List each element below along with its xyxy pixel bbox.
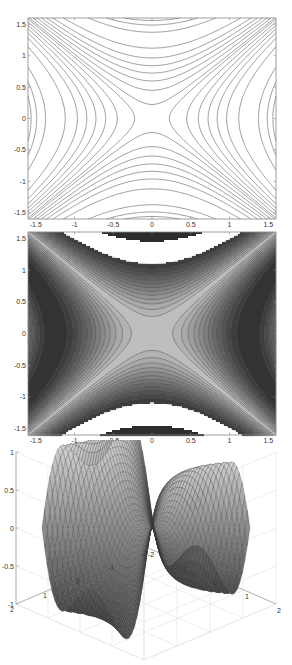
y-tick-label: -1 xyxy=(108,564,114,571)
z-tick-label: 0 xyxy=(10,525,14,532)
filled-contours xyxy=(28,232,276,436)
x-tick-label: -2 xyxy=(148,551,154,558)
y-tick-label: 2 xyxy=(10,606,14,613)
surface-mesh xyxy=(42,440,250,639)
surface-plot-panel: 10.50-0.5-1210-1-2-2-1012 xyxy=(0,440,292,665)
y-tick-label: -0.5 xyxy=(14,146,26,153)
x-tick-label: 1.5 xyxy=(263,221,273,228)
contour-plot-panel: -1.5-1-0.500.511.51.510.50-0.5-1-1.5 xyxy=(0,0,292,232)
y-tick-label: -1.5 xyxy=(14,209,26,216)
x-tick-label: -1 xyxy=(71,221,77,228)
y-tick-label: -2 xyxy=(141,550,147,557)
y-tick-label: -1 xyxy=(20,393,26,400)
x-tick-label: -1.5 xyxy=(30,221,42,228)
z-tick-label: -0.5 xyxy=(2,563,14,570)
x-tick-label: 1 xyxy=(228,221,232,228)
y-tick-label: -0.5 xyxy=(14,362,26,369)
contour-lines xyxy=(28,18,276,219)
filled-contour-plot: -1.5-1-0.500.511.51.510.50-0.5-1-1.5 xyxy=(0,228,292,448)
y-tick-label: 0 xyxy=(76,578,80,585)
y-tick-label: 0 xyxy=(22,115,26,122)
x-tick-label: -1 xyxy=(180,565,186,572)
filled-contour-panel: -1.5-1-0.500.511.51.510.50-0.5-1-1.5 xyxy=(0,228,292,448)
y-tick-label: 0.5 xyxy=(16,84,26,91)
x-tick-label: 0 xyxy=(150,221,154,228)
x-tick-label: 1 xyxy=(245,593,249,600)
x-tick-label: -0.5 xyxy=(107,221,119,228)
x-tick-label: 0 xyxy=(213,579,217,586)
y-tick-label: 1 xyxy=(22,52,26,59)
z-tick-label: 0.5 xyxy=(4,487,14,494)
x-tick-label: 0.5 xyxy=(186,221,196,228)
y-tick-label: 1.5 xyxy=(16,21,26,28)
y-tick-label: 1.5 xyxy=(16,235,26,242)
y-tick-label: 0 xyxy=(22,330,26,337)
surface-3d-plot: 10.50-0.5-1210-1-2-2-1012 xyxy=(0,440,292,665)
y-tick-label: 0.5 xyxy=(16,298,26,305)
y-tick-label: -1.5 xyxy=(14,425,26,432)
contour-line-plot: -1.5-1-0.500.511.51.510.50-0.5-1-1.5 xyxy=(0,0,292,232)
y-tick-label: 1 xyxy=(43,592,47,599)
z-tick-label: 1 xyxy=(10,449,14,456)
y-tick-label: -1 xyxy=(20,178,26,185)
x-tick-label: 2 xyxy=(277,607,281,614)
y-tick-label: 1 xyxy=(22,267,26,274)
